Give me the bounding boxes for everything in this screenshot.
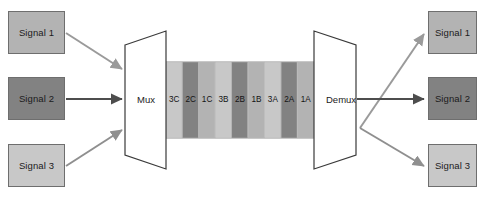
output-signal-box-1[interactable]: Signal 1 <box>428 11 477 54</box>
input-signal-label-3: Signal 3 <box>19 160 54 171</box>
link-slot-label-3c: 3C <box>166 96 182 104</box>
input-signal-label-1: Signal 1 <box>19 27 54 38</box>
output-signal-label-3: Signal 3 <box>435 160 470 171</box>
link-slot-label-3a: 3A <box>265 96 281 104</box>
diagram-canvas: Signal 1 Signal 2 Signal 3 Signal 1 Sign… <box>0 0 481 197</box>
arrow-input-signal-1 <box>66 33 122 69</box>
link-slot-label-3b: 3B <box>215 96 231 104</box>
output-signal-box-3[interactable]: Signal 3 <box>428 144 477 187</box>
link-slot-label-1b: 1B <box>248 96 264 104</box>
output-signal-label-1: Signal 1 <box>435 27 470 38</box>
link-slot-label-1c: 1C <box>199 96 215 104</box>
input-signal-label-2: Signal 2 <box>19 93 54 104</box>
input-signal-box-2[interactable]: Signal 2 <box>8 77 65 120</box>
link-slot-label-1a: 1A <box>298 96 314 104</box>
arrow-input-signal-3 <box>66 130 122 166</box>
link-slot-label-2b: 2B <box>232 96 248 104</box>
input-signal-box-1[interactable]: Signal 1 <box>8 11 65 54</box>
arrow-output-signal-1 <box>360 34 424 128</box>
demux-label: Demux <box>326 94 356 105</box>
link-slot-label-2a: 2A <box>281 96 297 104</box>
arrow-output-signal-3 <box>360 128 424 166</box>
input-signal-box-3[interactable]: Signal 3 <box>8 144 65 187</box>
link-slot-label-2c: 2C <box>182 96 198 104</box>
mux-label: Mux <box>137 94 155 105</box>
output-signal-label-2: Signal 2 <box>435 93 470 104</box>
output-signal-box-2[interactable]: Signal 2 <box>428 77 477 120</box>
